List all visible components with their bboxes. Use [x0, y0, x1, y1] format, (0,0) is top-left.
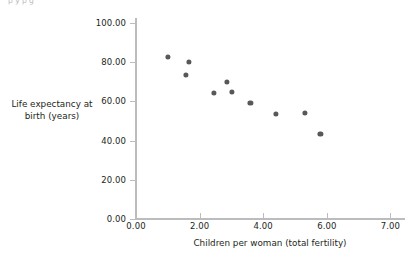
x-axis-line: [135, 218, 405, 220]
y-tick-label: 100.00: [80, 18, 126, 28]
y-tick-mark: [130, 180, 135, 181]
scatter-point: [273, 111, 278, 116]
x-tick-mark: [136, 213, 137, 218]
scatter-point: [229, 89, 234, 94]
scatter-plot-figure: p y p g 0.0020.0040.0060.0080.00100.00 0…: [0, 0, 419, 264]
x-tick-mark: [263, 213, 264, 218]
y-axis-line: [135, 18, 137, 220]
scatter-point: [224, 79, 229, 84]
x-tick-mark: [200, 213, 201, 218]
y-tick-label: 20.00: [80, 175, 126, 185]
cut-off-caption-text: p y p g: [8, 0, 34, 5]
x-axis-title: Children per woman (total fertility): [136, 238, 404, 250]
y-tick-mark: [130, 23, 135, 24]
x-tick-label: 0.00: [126, 221, 145, 231]
x-tick-label: 4.00: [254, 221, 273, 231]
scatter-point: [187, 59, 192, 64]
y-tick-label: 80.00: [80, 57, 126, 67]
scatter-point: [183, 72, 188, 77]
scatter-point: [302, 110, 307, 115]
y-tick-mark: [130, 219, 135, 220]
x-tick-label: 6.00: [317, 221, 336, 231]
x-tick-mark: [327, 213, 328, 218]
y-tick-mark: [130, 101, 135, 102]
x-tick-mark: [390, 213, 391, 218]
scatter-point: [165, 54, 170, 59]
y-axis-title: Life expectancy at birth (years): [6, 99, 98, 122]
x-tick-label: 7.00: [381, 221, 400, 231]
y-tick-label: 40.00: [80, 136, 126, 146]
cut-off-caption: p y p g: [0, 0, 419, 9]
scatter-point: [211, 90, 216, 95]
y-tick-mark: [130, 141, 135, 142]
y-tick-label: 0.00: [80, 214, 126, 224]
y-tick-mark: [130, 62, 135, 63]
scatter-point: [248, 100, 253, 105]
x-tick-label: 2.00: [190, 221, 209, 231]
scatter-point: [318, 131, 323, 136]
